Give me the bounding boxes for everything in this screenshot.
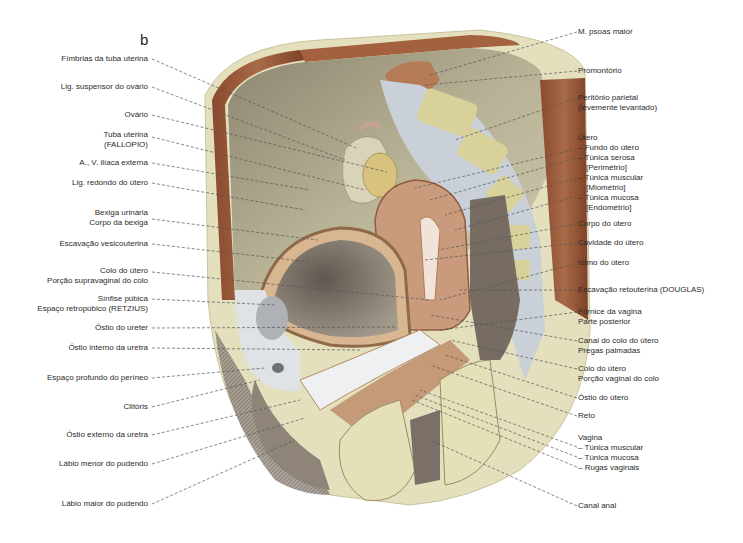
label-lig-redondo-utero: Lig. redondo do útero [72, 178, 148, 188]
panel-letter: b [140, 31, 148, 48]
label-canal-colo-utero: Canal do colo do úteroPregas palmadas [578, 336, 659, 356]
label-peritonio-parietal: Peritônio parietal(levemente levantado) [578, 93, 657, 113]
label-clitoris: Clitóris [124, 402, 148, 412]
label-labio-menor-pudendo: Lábio menor do pudendo [59, 459, 148, 469]
label-tuba-uterina: Tuba uterina(FALLOPIO) [103, 130, 148, 150]
label-istmo-utero: Istmo do útero [578, 258, 629, 268]
anatomy-figure: b Fímbrias da tuba uterina Lig. suspenso… [0, 0, 743, 543]
label-utero-group: Útero – Fundo do útero – Túnica serosa [… [578, 133, 643, 213]
label-bexiga-urinaria: Bexiga urináriaCorpo da bexiga [89, 208, 148, 228]
label-cavidade-utero: Cavidade do útero [578, 238, 643, 248]
label-colo-utero-supravaginal: Colo do úteroPorção supravaginal do colo [47, 266, 148, 286]
label-escavacao-retouterina: Escavação retouterina (DOUGLAS) [578, 285, 704, 295]
label-ostio-interno-uretra: Óstio interno da uretra [68, 343, 148, 353]
label-colo-utero-vaginal: Colo do úteroPorção vaginal do colo [578, 364, 659, 384]
label-ostio-utero: Óstio do útero [578, 393, 628, 403]
label-canal-anal: Canal anal [578, 501, 616, 511]
label-vagina-group: Vagina – Túnica muscular – Túnica mucosa… [578, 433, 643, 473]
label-sinfise-pubica: Sínfise púbicaEspaço retropúbico (RETZIU… [37, 294, 148, 314]
label-m-psoas-maior: M. psoas maior [578, 27, 633, 37]
label-espaco-profundo-perineo: Espaço profundo do períneo [47, 373, 148, 383]
label-escavacao-vesicouterina: Escavação vesicouterina [60, 239, 149, 249]
label-ostio-ureter: Óstio do ureter [95, 323, 148, 333]
label-labio-maior-pudendo: Lábio maior do pudendo [62, 499, 148, 509]
label-reto: Reto [578, 411, 595, 421]
label-fimbrias-tuba-uterina: Fímbrias da tuba uterina [61, 54, 148, 64]
label-ovario: Ovário [124, 110, 148, 120]
label-promontorio: Promontório [578, 66, 622, 76]
label-a-v-iliaca-externa: A., V. ilíaca externa [79, 158, 148, 168]
label-ostio-externo-uretra: Óstio externo da uretra [66, 430, 148, 440]
label-fornice-vagina: Fórnice da vaginaParte posterior [578, 307, 642, 327]
label-corpo-utero: Corpo do útero [578, 219, 631, 229]
label-lig-suspensor-ovario: Lig. suspensor do ovário [61, 82, 148, 92]
